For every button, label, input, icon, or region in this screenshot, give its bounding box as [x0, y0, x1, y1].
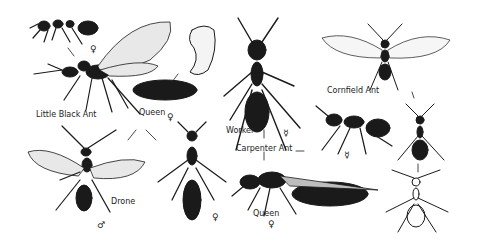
cornfield-ant-label: Cornfield Ant: [327, 87, 379, 95]
little-black-ant-winged-queen-drawing: [34, 22, 197, 114]
carpenter-queen-label: Queen: [253, 210, 279, 218]
worker-symbol-icon: ☿: [344, 151, 350, 160]
male-symbol-icon: ♂: [97, 221, 105, 230]
larva-drawing: [189, 26, 215, 75]
ant-illustration-plate: Little Black Ant Queen ♀ ♀ Drone ♂ ♀ Wor…: [0, 0, 480, 245]
drone-label: Drone: [111, 198, 135, 206]
worker-symbol-icon: ☿: [283, 129, 289, 138]
cornfield-ant-worker-drawing: [398, 104, 444, 160]
female-symbol-icon: ♀: [268, 220, 275, 229]
female-symbol-icon: ♀: [90, 45, 97, 54]
little-black-ant-worker-drawing: [30, 20, 98, 44]
carpenter-ant-side-worker-drawing: [316, 106, 392, 154]
female-symbol-icon: ♀: [167, 113, 174, 122]
worker-label: Worker: [226, 127, 254, 135]
little-black-ant-label: Little Black Ant: [36, 111, 97, 119]
female-symbol-icon: ♀: [212, 213, 219, 222]
cornfield-ant-light-worker-drawing: [386, 170, 448, 232]
cornfield-ant-winged-drawing: [322, 24, 450, 90]
dealate-queen-drawing: [158, 122, 226, 220]
little-black-ant-queen-label: Queen: [139, 109, 165, 117]
carpenter-ant-label: Carpenter Ant: [236, 145, 292, 153]
ant-drawings: [0, 0, 480, 245]
